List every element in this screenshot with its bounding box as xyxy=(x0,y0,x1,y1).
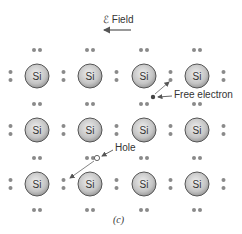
valence-electron xyxy=(192,48,196,52)
valence-electron xyxy=(62,178,66,182)
valence-electron xyxy=(169,178,173,182)
valence-electron xyxy=(198,156,202,160)
figure-caption: (c) xyxy=(113,215,124,225)
si-atom-label: Si xyxy=(140,125,149,136)
valence-electron xyxy=(9,78,13,82)
valence-electron xyxy=(115,178,119,182)
valence-electron xyxy=(115,132,119,136)
si-atom-label: Si xyxy=(86,179,95,190)
valence-electron xyxy=(85,156,89,160)
valence-electron xyxy=(32,156,36,160)
valence-electron xyxy=(222,186,226,190)
valence-electron xyxy=(62,124,66,128)
valence-electron xyxy=(139,156,143,160)
valence-electron xyxy=(91,48,95,52)
si-atom-label: Si xyxy=(193,179,202,190)
valence-electron xyxy=(9,132,13,136)
valence-electron xyxy=(62,186,66,190)
valence-electron xyxy=(62,78,66,82)
valence-electron xyxy=(32,48,36,52)
valence-electron xyxy=(169,78,173,82)
valence-electron xyxy=(9,124,13,128)
valence-electron xyxy=(9,70,13,74)
valence-electron xyxy=(198,48,202,52)
si-atom-label: Si xyxy=(140,179,149,190)
valence-electron xyxy=(222,70,226,74)
valence-electron xyxy=(115,70,119,74)
valence-electron xyxy=(169,124,173,128)
hole-circle xyxy=(94,155,99,160)
free-electron-path-arrow xyxy=(155,82,169,94)
valence-electron xyxy=(91,102,95,106)
valence-electron xyxy=(198,208,202,212)
valence-electron xyxy=(38,102,42,106)
valence-electron xyxy=(115,78,119,82)
valence-electron xyxy=(169,186,173,190)
valence-electron xyxy=(145,208,149,212)
valence-electron xyxy=(139,102,143,106)
valence-electron xyxy=(85,208,89,212)
si-atom-label: Si xyxy=(140,71,149,82)
valence-electron xyxy=(62,70,66,74)
valence-electron xyxy=(192,156,196,160)
silicon-lattice-diagram: SiSiSiSiSiSiSiSiSiSiSiSi ℰ Field Free el… xyxy=(0,0,242,234)
valence-electron xyxy=(38,156,42,160)
valence-electron xyxy=(62,132,66,136)
valence-electron xyxy=(139,208,143,212)
si-atom-label: Si xyxy=(193,71,202,82)
valence-electron xyxy=(198,102,202,106)
valence-electron xyxy=(222,124,226,128)
valence-electron xyxy=(222,132,226,136)
valence-electron xyxy=(222,178,226,182)
free-electron-dot xyxy=(151,95,155,99)
si-atom-label: Si xyxy=(33,125,42,136)
valence-electron xyxy=(145,48,149,52)
valence-electron xyxy=(32,102,36,106)
valence-electron xyxy=(222,78,226,82)
field-label: ℰ Field xyxy=(103,15,133,25)
valence-electron xyxy=(32,208,36,212)
si-atoms: SiSiSiSiSiSiSiSiSiSiSiSi xyxy=(25,64,209,196)
si-atom-label: Si xyxy=(86,125,95,136)
valence-electron xyxy=(9,178,13,182)
valence-electron xyxy=(38,208,42,212)
free-electron-label: Free electron xyxy=(174,90,233,100)
valence-electron xyxy=(85,102,89,106)
si-atom-label: Si xyxy=(86,71,95,82)
valence-electron xyxy=(115,186,119,190)
valence-electron xyxy=(145,156,149,160)
lattice-svg: SiSiSiSiSiSiSiSiSiSiSiSi xyxy=(0,0,242,234)
valence-electron xyxy=(169,70,173,74)
valence-electron xyxy=(192,208,196,212)
valence-electron xyxy=(139,48,143,52)
hole-label: Hole xyxy=(115,143,136,153)
free-electron-label-arrow xyxy=(158,96,172,97)
si-atom-label: Si xyxy=(193,125,202,136)
valence-electron xyxy=(91,208,95,212)
valence-electron xyxy=(9,186,13,190)
valence-electron xyxy=(38,48,42,52)
si-atom-label: Si xyxy=(33,179,42,190)
valence-electron xyxy=(145,102,149,106)
valence-electron xyxy=(192,102,196,106)
valence-electron xyxy=(115,124,119,128)
valence-electron xyxy=(85,48,89,52)
si-atom-label: Si xyxy=(33,71,42,82)
hole-label-arrow xyxy=(102,150,113,156)
valence-electron xyxy=(169,132,173,136)
